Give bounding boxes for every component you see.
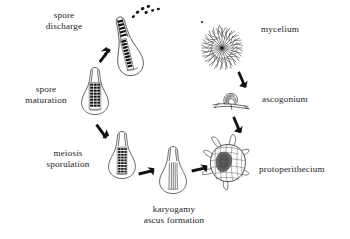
- label-karyogamy-line2: ascus formation: [144, 215, 205, 226]
- stray-spore-speck: [201, 21, 203, 23]
- label-spore-maturation-line2: maturation: [25, 95, 66, 106]
- label-protoperithecium: protoperithecium: [259, 164, 325, 175]
- label-spore-discharge-line1: spore: [46, 10, 82, 21]
- label-spore-discharge: spore discharge: [46, 10, 82, 32]
- label-meiosis-line1: meiosis: [47, 148, 90, 159]
- label-spore-maturation: spore maturation: [25, 84, 66, 106]
- label-meiosis-line2: sporulation: [47, 159, 90, 170]
- mature-spore-grid: [89, 83, 101, 110]
- label-ascogonium: ascogonium: [262, 94, 308, 105]
- label-meiosis-sporulation: meiosis sporulation: [47, 148, 90, 170]
- label-mycelium: mycelium: [261, 24, 299, 35]
- label-spore-maturation-line1: spore: [25, 84, 66, 95]
- spore-ladder: [117, 147, 127, 173]
- label-spore-discharge-line2: discharge: [46, 21, 82, 32]
- label-karyogamy-line1: karyogamy: [144, 204, 205, 215]
- label-karyogamy-ascus-formation: karyogamy ascus formation: [144, 204, 205, 226]
